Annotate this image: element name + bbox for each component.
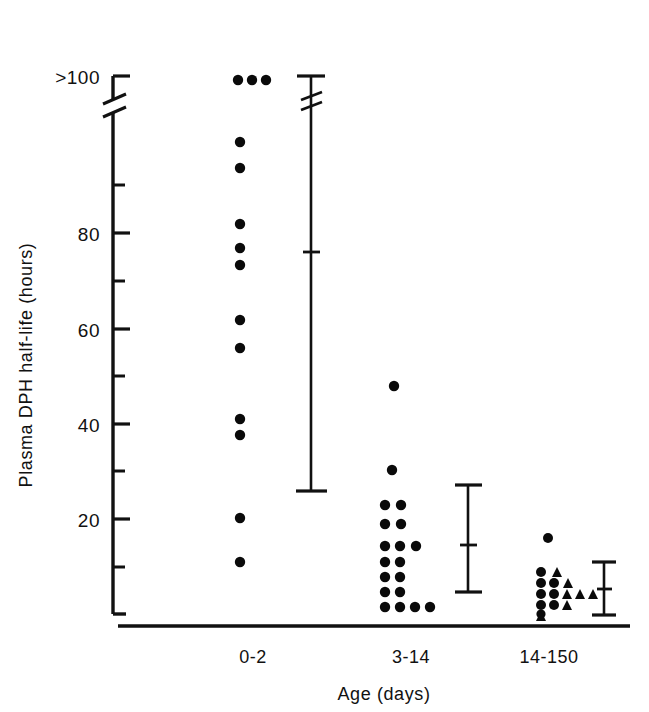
data-point <box>380 557 390 567</box>
scatter-plot-svg: >100 80 60 40 20 Plasma DPH half-life (h… <box>0 0 649 712</box>
x-category-label-2: 14-150 <box>519 647 578 667</box>
data-point-triangle <box>552 567 562 577</box>
data-point <box>396 519 406 529</box>
data-point <box>380 500 390 510</box>
data-point <box>235 243 245 253</box>
data-point-triangle <box>588 589 598 599</box>
y-tick-label-80: 80 <box>78 224 100 245</box>
data-point <box>536 600 546 610</box>
data-group-14-150 <box>536 533 616 621</box>
data-point <box>380 541 390 551</box>
y-axis-title: Plasma DPH half-life (hours) <box>16 243 36 488</box>
data-point <box>235 343 245 353</box>
error-bar-0-2 <box>296 76 327 491</box>
data-group-0-2 <box>233 75 327 567</box>
data-point <box>235 513 245 523</box>
data-point <box>233 75 243 85</box>
data-point <box>261 75 271 85</box>
data-point <box>536 578 546 588</box>
data-point-triangle <box>575 589 585 599</box>
data-point <box>235 315 245 325</box>
data-point <box>395 572 405 582</box>
data-point <box>235 414 245 424</box>
y-tick-label-40: 40 <box>78 415 100 436</box>
data-point <box>549 600 559 610</box>
data-point-triangle <box>562 600 572 610</box>
data-point <box>395 557 405 567</box>
data-point <box>380 519 390 529</box>
chart-figure: >100 80 60 40 20 Plasma DPH half-life (h… <box>0 0 649 712</box>
data-point <box>235 219 245 229</box>
y-axis-break-mark <box>103 94 126 117</box>
data-point <box>389 381 399 391</box>
data-point <box>247 75 257 85</box>
data-point <box>380 587 390 597</box>
data-point <box>543 533 553 543</box>
data-point <box>549 589 559 599</box>
y-tick-label-20: 20 <box>78 510 100 531</box>
data-point <box>396 500 406 510</box>
y-axis <box>103 76 130 614</box>
data-point <box>235 430 245 440</box>
x-axis-title: Age (days) <box>337 684 430 704</box>
error-bar-14-150 <box>592 562 616 615</box>
data-point <box>387 465 397 475</box>
data-point <box>425 602 435 612</box>
y-tick-label-60: 60 <box>78 320 100 341</box>
data-point <box>395 587 405 597</box>
data-point <box>395 602 405 612</box>
data-point <box>380 602 390 612</box>
data-point <box>235 260 245 270</box>
data-point <box>235 557 245 567</box>
data-point <box>410 602 420 612</box>
data-point-triangle <box>563 578 573 588</box>
x-category-label-0: 0-2 <box>239 647 267 667</box>
data-point-triangle <box>562 589 572 599</box>
data-point <box>395 541 405 551</box>
data-point <box>380 572 390 582</box>
error-bar-3-14 <box>455 485 482 592</box>
data-group-3-14 <box>380 381 482 612</box>
data-point <box>235 163 245 173</box>
x-category-label-1: 3-14 <box>392 647 430 667</box>
data-point <box>411 541 421 551</box>
data-point <box>536 589 546 599</box>
y-tick-label-gt100: >100 <box>55 67 100 88</box>
data-point <box>536 567 546 577</box>
data-point <box>235 137 245 147</box>
data-point <box>549 578 559 588</box>
